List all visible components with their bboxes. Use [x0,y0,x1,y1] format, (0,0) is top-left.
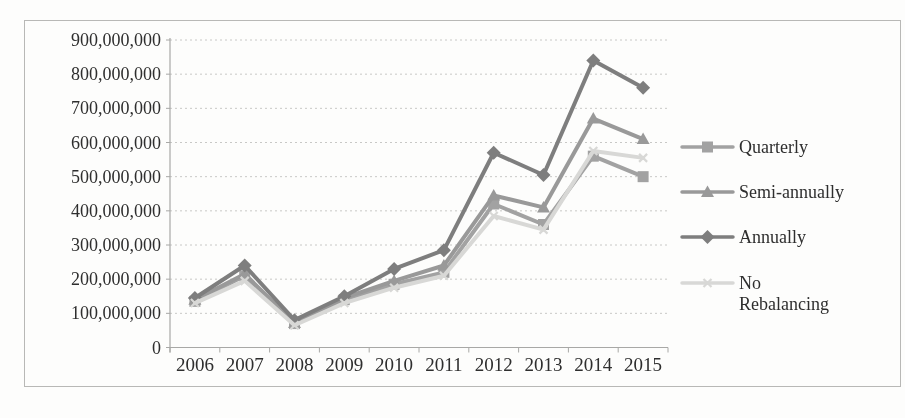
legend-marker-quarterly [702,142,713,153]
y-tick-label: 300,000,000 [71,235,161,255]
x-tick-label: 2013 [525,354,563,375]
rebalancing-portfolio-line-chart: 0100,000,000200,000,000300,000,000400,00… [0,0,905,418]
x-tick-label: 2010 [375,354,413,375]
x-tick-label: 2014 [574,354,613,375]
x-tick-label: 2007 [226,354,264,375]
marker-annually [437,243,451,257]
series-line-no-rebalancing [195,151,643,325]
x-tick-label: 2015 [624,354,662,375]
x-tick-label: 2008 [276,354,314,375]
marker-annually [537,168,551,182]
scanned-chart-page: 0100,000,000200,000,000300,000,000400,00… [0,0,905,418]
y-tick-label: 400,000,000 [71,201,161,221]
x-tick-label: 2011 [425,354,462,375]
y-tick-label: 900,000,000 [71,30,161,50]
y-tick-label: 200,000,000 [71,269,161,289]
x-tick-label: 2009 [325,354,363,375]
y-tick-label: 800,000,000 [71,64,161,84]
legend-label-semi-annually: Semi-annually [739,182,844,202]
y-tick-label: 500,000,000 [71,167,161,187]
legend-label-no-rebalancing: NoRebalancing [739,273,829,314]
legend-label-annually: Annually [739,227,806,247]
y-tick-label: 700,000,000 [71,98,161,118]
y-tick-label: 100,000,000 [71,303,161,323]
legend-marker-annually [701,230,715,244]
x-tick-label: 2006 [176,354,214,375]
marker-annually [487,146,501,160]
marker-quarterly [638,171,649,182]
y-tick-label: 600,000,000 [71,133,161,153]
marker-semi-annually [587,112,600,124]
legend-label-quarterly: Quarterly [739,137,808,157]
series-line-semi-annually [195,119,643,323]
y-tick-label: 0 [152,338,161,358]
x-tick-label: 2012 [475,354,513,375]
